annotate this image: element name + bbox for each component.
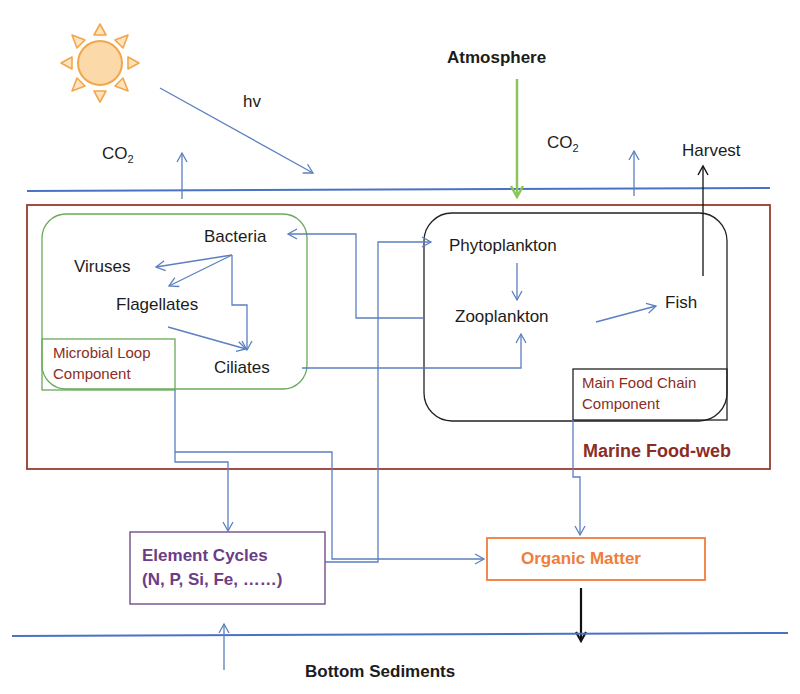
ciliates-zoo-connector xyxy=(302,334,521,368)
harvest-label: Harvest xyxy=(682,141,741,161)
main-food-chain-label-line2: Component xyxy=(582,393,696,414)
co2-right-subscript: 2 xyxy=(573,142,579,154)
zoo-bacteria-connector xyxy=(288,234,424,318)
sea-bottom-line xyxy=(12,633,788,636)
bottom-sediments-label: Bottom Sediments xyxy=(305,662,455,682)
element-cycles-label: Element Cycles (N, P, Si, Fe, ……) xyxy=(142,544,282,592)
microbial-organic-connector xyxy=(175,452,484,559)
main-food-chain-label-line1: Main Food Chain xyxy=(582,372,696,393)
hv-label: hv xyxy=(243,92,261,112)
node-flagellates: Flagellates xyxy=(116,295,198,315)
organic-matter-label: Organic Matter xyxy=(521,549,641,569)
sea-surface-line xyxy=(27,188,770,191)
element-cycles-title: Element Cycles xyxy=(142,544,282,568)
light-arrow xyxy=(160,88,313,173)
marine-food-web-title: Marine Food-web xyxy=(583,441,731,462)
element-cycles-subtitle: (N, P, Si, Fe, ……) xyxy=(142,568,282,592)
microbial-loop-label-line2: Component xyxy=(53,363,151,384)
co2-right-label: CO2 xyxy=(547,133,579,154)
node-fish: Fish xyxy=(665,293,697,313)
microbial-loop-label-line1: Microbial Loop xyxy=(53,342,151,363)
co2-left-text: CO xyxy=(102,144,128,163)
atmosphere-label: Atmosphere xyxy=(447,48,546,68)
main-food-chain-label: Main Food Chain Component xyxy=(582,372,696,414)
node-bacteria: Bacteria xyxy=(204,227,266,247)
node-viruses: Viruses xyxy=(74,257,130,277)
microbial-element-connector xyxy=(175,390,228,531)
marine-food-web-box xyxy=(27,205,770,469)
node-phytoplankton: Phytoplankton xyxy=(449,236,557,256)
co2-right-text: CO xyxy=(547,133,573,152)
co2-left-subscript: 2 xyxy=(128,153,134,165)
mainchain-organic-connector xyxy=(573,420,580,535)
sun-icon xyxy=(61,24,139,102)
co2-left-label: CO2 xyxy=(102,144,134,165)
node-ciliates: Ciliates xyxy=(214,358,270,378)
node-zooplankton: Zooplankton xyxy=(455,307,549,327)
zoo-fish-arrow xyxy=(596,306,656,322)
element-phyto-connector xyxy=(325,242,431,562)
microbial-loop-label: Microbial Loop Component xyxy=(53,342,151,384)
